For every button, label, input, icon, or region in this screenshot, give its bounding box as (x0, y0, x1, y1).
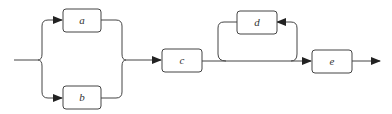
node-d-box (237, 11, 277, 34)
node-a-box (63, 9, 101, 32)
loop-return-d (277, 22, 297, 61)
join-branch-a (101, 20, 126, 60)
node-c-box (162, 49, 202, 72)
split-branch-a (38, 20, 62, 60)
node-e-box (312, 50, 352, 73)
split-branch-b (38, 60, 62, 98)
node-b-box (63, 86, 101, 109)
join-branch-b (101, 60, 126, 98)
flow-diagram (0, 0, 392, 114)
loop-edge-d (218, 22, 237, 61)
